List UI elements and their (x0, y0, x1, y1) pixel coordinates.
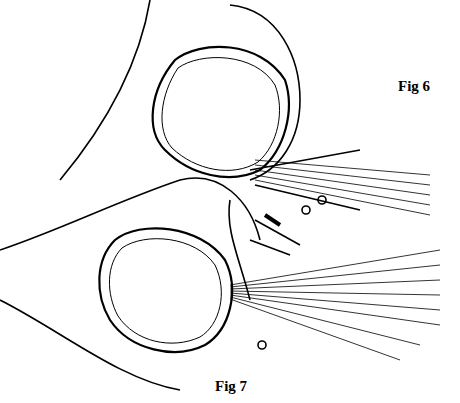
figure-label-6: Fig 6 (398, 78, 430, 95)
line-art-drawing (0, 0, 460, 403)
figure-label-7: Fig 7 (215, 378, 247, 395)
illustration: Fig 6 Fig 7 (0, 0, 460, 403)
